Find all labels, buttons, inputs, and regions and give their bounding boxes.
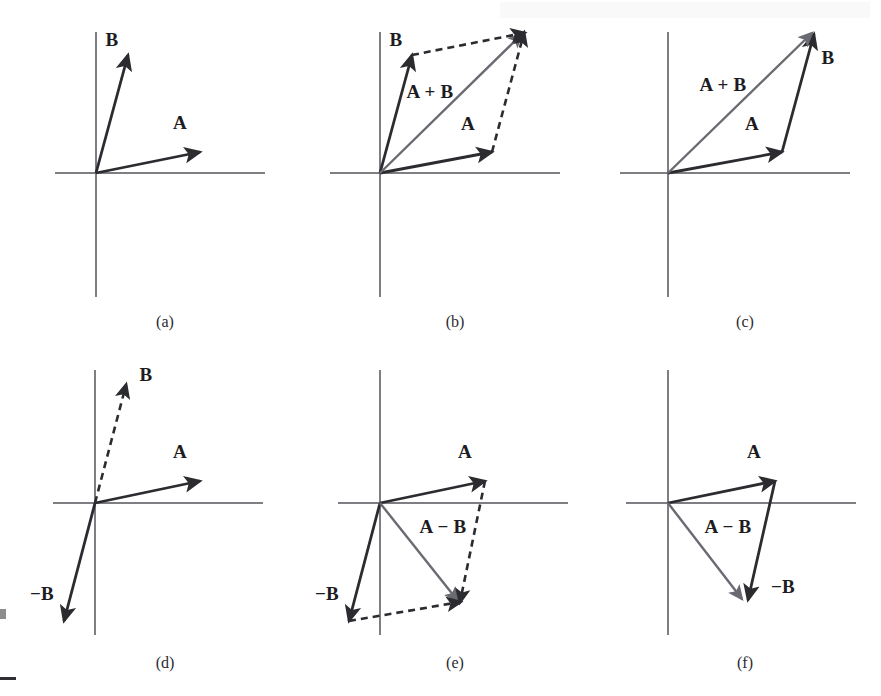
vector-d--b xyxy=(64,503,95,621)
vector-label-d--b: −B xyxy=(30,583,54,605)
vector-d-b xyxy=(95,385,126,503)
vector-label-d-a: A xyxy=(173,441,187,463)
vector-e-a-translated xyxy=(349,602,460,621)
vector-label-f-a-b: A − B xyxy=(704,516,751,538)
vector-label-c-b-translated: B xyxy=(822,47,835,69)
vector-label-e--b: −B xyxy=(315,583,339,605)
vector-a-a xyxy=(96,152,200,173)
vector-label-d-b: B xyxy=(140,364,153,386)
vector-canvas xyxy=(0,0,881,696)
panel-caption-e: (e) xyxy=(446,654,464,672)
vector-label-b-a: A xyxy=(461,113,475,135)
vector-label-a-b: B xyxy=(106,29,119,51)
vector-label-f-a: A xyxy=(747,441,761,463)
vector-label-b-b: B xyxy=(390,29,403,51)
vector-label-c-a-b: A + B xyxy=(699,74,746,96)
vector-label-e-a: A xyxy=(458,441,472,463)
vector-label-b-a-b: A + B xyxy=(406,81,453,103)
vector-e--b-translated xyxy=(460,481,485,602)
vector-label-f--b-translated: −B xyxy=(771,576,795,598)
panel-caption-d: (d) xyxy=(156,654,175,672)
vector-e--b xyxy=(349,503,380,621)
vector-b-a-b xyxy=(380,34,522,173)
vector-b-b-translated xyxy=(412,33,524,55)
vector-c-b-translated xyxy=(782,34,814,152)
vector-figure: AB(a)ABA + B(b)ABA + B(c)AB−B(d)A−BA − B… xyxy=(0,0,881,696)
panel-caption-a: (a) xyxy=(156,313,174,331)
vector-label-c-a: A xyxy=(745,113,759,135)
vector-label-a-a: A xyxy=(173,112,187,134)
vector-b-a-translated xyxy=(492,33,524,152)
panel-caption-b: (b) xyxy=(446,313,465,331)
vector-f-a xyxy=(668,481,775,503)
vector-c-a-b xyxy=(668,33,812,173)
vector-d-a xyxy=(95,481,200,503)
vector-a-b xyxy=(96,55,128,173)
panel-caption-f: (f) xyxy=(737,654,753,672)
panel-caption-c: (c) xyxy=(736,313,754,331)
vector-e-a xyxy=(380,481,485,503)
vector-label-e-a-b: A − B xyxy=(419,516,466,538)
vector-b-b xyxy=(380,55,412,173)
